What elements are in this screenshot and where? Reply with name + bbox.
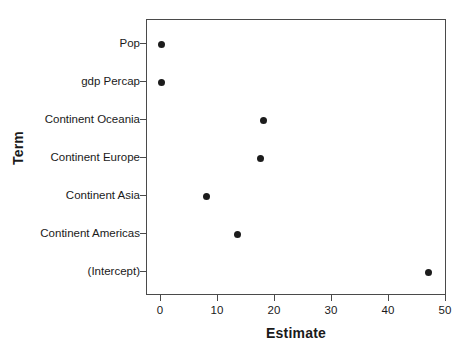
data-point	[158, 79, 165, 86]
y-axis-tick-label: Continent Oceania	[0, 113, 140, 125]
x-axis-tick-mark	[445, 295, 446, 301]
dot-plot-chart: Term Popgdp PercapContinent OceaniaConti…	[0, 0, 472, 356]
x-axis-tick-mark	[160, 295, 161, 301]
plot-panel	[146, 19, 446, 295]
x-axis-tick-label: 10	[211, 304, 224, 316]
x-axis-tick-label: 20	[268, 304, 281, 316]
data-point	[203, 193, 210, 200]
x-axis-tick-label: 40	[382, 304, 395, 316]
x-axis-tick-mark	[274, 295, 275, 301]
x-axis-tick-mark	[217, 295, 218, 301]
x-axis-tick-label: 0	[157, 304, 163, 316]
x-axis-tick-label: 50	[439, 304, 452, 316]
y-axis-tick-label: Continent Asia	[0, 189, 140, 201]
data-point	[257, 155, 264, 162]
x-axis-tick-mark	[331, 295, 332, 301]
data-point	[234, 231, 241, 238]
data-point	[158, 41, 165, 48]
y-axis-tick-labels: Popgdp PercapContinent OceaniaContinent …	[0, 0, 140, 356]
x-axis-tick-mark	[388, 295, 389, 301]
x-axis-tick-label: 30	[325, 304, 338, 316]
y-axis-tick-label: (Intercept)	[0, 265, 140, 277]
y-axis-tick-label: Continent Europe	[0, 151, 140, 163]
data-point	[260, 117, 267, 124]
data-point	[425, 269, 432, 276]
y-axis-tick-label: gdp Percap	[0, 75, 140, 87]
y-axis-tick-label: Continent Americas	[0, 227, 140, 239]
y-axis-tick-label: Pop	[0, 37, 140, 49]
x-axis-title: Estimate	[146, 325, 446, 341]
